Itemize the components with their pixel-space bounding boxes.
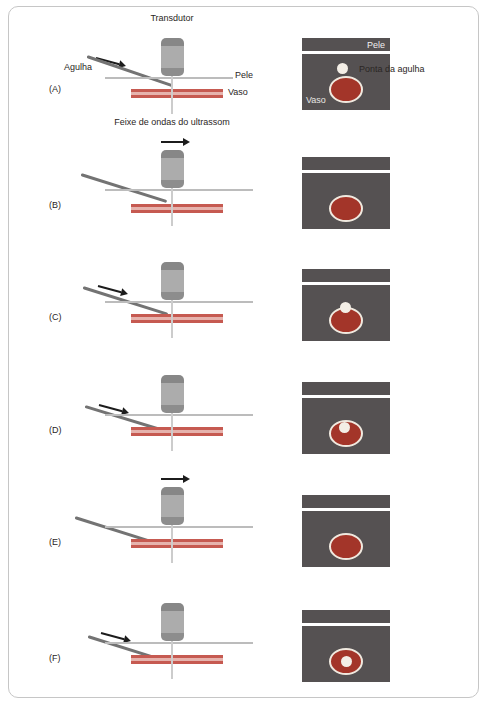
skin-line (105, 414, 253, 416)
panel-skin-band (302, 269, 390, 282)
ultrasound-panel-a: Pele Ponta da agulha Vaso (302, 38, 390, 110)
panel-skin-band (302, 610, 390, 623)
beam-line (171, 76, 173, 114)
figure-border (8, 6, 479, 698)
needle-label: Agulha (64, 62, 92, 72)
needle-tip-dot (340, 302, 351, 313)
transducer-icon (161, 150, 184, 188)
panel-skin-band (302, 157, 390, 170)
vessel-band (131, 427, 223, 436)
beam-line (171, 300, 173, 338)
needle-tip-dot (339, 422, 350, 433)
skin-line (105, 189, 253, 191)
row-label-f: (F) (49, 653, 61, 663)
vessel-band (131, 655, 223, 664)
ultrasound-panel-e (302, 495, 390, 567)
beam-line (171, 641, 173, 679)
ultrasound-panel-d (302, 382, 390, 454)
skin-line (105, 526, 253, 528)
transducer-slide-arrow-icon (161, 141, 183, 143)
row-label-d: (D) (49, 425, 62, 435)
skin-line (105, 301, 253, 303)
ultrasound-panel-b (302, 157, 390, 229)
ultrasound-panel-c (302, 269, 390, 341)
vessel-band (131, 89, 223, 98)
skin-line (105, 77, 233, 79)
transducer-label: Transdutor (132, 13, 212, 23)
needle-tip-dot (337, 63, 348, 74)
ultrasound-panel-f (302, 610, 390, 682)
needle-tip-label: Ponta da agulha (359, 64, 425, 74)
vessel-band (131, 314, 223, 323)
vessel-label: Vaso (228, 87, 248, 97)
panel-skin-label: Pele (367, 40, 385, 50)
transducer-icon (161, 603, 184, 641)
beam-line (171, 188, 173, 226)
vessel-oval (329, 533, 363, 560)
row-label-c: (C) (49, 312, 62, 322)
figure-ultrasound-needle-guidance: Transdutor Agulha Pele (A) Vaso Feixe de… (0, 0, 487, 704)
row-label-b: (B) (49, 200, 61, 210)
needle-tip-dot (341, 656, 352, 667)
beam-line (171, 413, 173, 451)
row-label-a: (A) (49, 84, 61, 94)
beam-label: Feixe de ondas do ultrassom (92, 117, 252, 127)
transducer-slide-arrow-icon (161, 478, 183, 480)
vessel-band (131, 539, 223, 548)
panel-skin-band (302, 382, 390, 395)
panel-vessel-label: Vaso (306, 95, 326, 105)
beam-line (171, 525, 173, 563)
vessel-band (131, 204, 223, 213)
transducer-icon (161, 375, 184, 413)
transducer-icon (161, 487, 184, 525)
row-label-e: (E) (49, 537, 61, 547)
transducer-icon (161, 38, 184, 76)
panel-skin-band (302, 495, 390, 508)
transducer-icon (161, 262, 184, 300)
vessel-oval (329, 76, 363, 103)
skin-line (105, 642, 253, 644)
skin-label: Pele (235, 70, 253, 80)
vessel-oval (329, 195, 363, 222)
